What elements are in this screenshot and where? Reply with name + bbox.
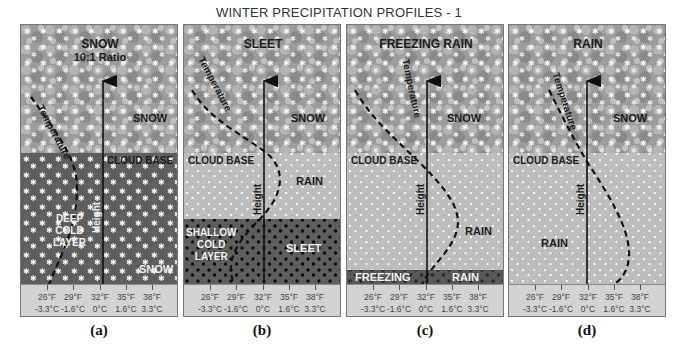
tick-label-celsius: 1.6°C <box>603 304 624 314</box>
axis-tick <box>561 285 562 290</box>
axis-tick <box>315 285 316 290</box>
axis-tick <box>289 285 290 290</box>
temperature-axis: 26°F-3.3°C29°F-1.6°C32°F0°C35°F1.6°C38°F… <box>347 284 503 317</box>
tick-label-fahrenheit: 29°F <box>64 292 82 302</box>
tick-label-celsius: 0°C <box>419 304 433 314</box>
layer-line-1: DEEP <box>53 213 86 225</box>
axis-tick <box>452 285 453 290</box>
axis-tick <box>236 285 237 290</box>
tick-label-celsius: 1.6°C <box>115 304 136 314</box>
tick-label-celsius: -1.6°C <box>387 304 411 314</box>
figure-title: WINTER PRECIPITATION PROFILES - 1 <box>0 5 678 20</box>
tick-label-fahrenheit: 35°F <box>117 292 135 302</box>
axis-tick <box>426 285 427 290</box>
tick-label-fahrenheit: 32°F <box>91 292 109 302</box>
tick-label-fahrenheit: 32°F <box>254 292 272 302</box>
axis-tick <box>126 285 127 290</box>
deep-cold-layer-label: DEEP COLD LAYER <box>53 213 86 249</box>
layer-line-2: COLD <box>186 239 237 251</box>
tick-label-fahrenheit: 35°F <box>605 292 623 302</box>
axis-tick <box>47 285 48 290</box>
upper-snow-label: SNOW <box>447 112 481 124</box>
height-axis-label: Height <box>91 202 102 233</box>
rain-label: RAIN <box>465 225 492 237</box>
tick-label-fahrenheit: 29°F <box>390 292 408 302</box>
axis-tick <box>373 285 374 290</box>
tick-label-fahrenheit: 35°F <box>280 292 298 302</box>
lower-sleet-label: SLEET <box>286 242 321 254</box>
tick-label-fahrenheit: 29°F <box>552 292 570 302</box>
tick-label-fahrenheit: 35°F <box>443 292 461 302</box>
tick-label-celsius: -3.3°C <box>198 304 222 314</box>
axis-tick <box>399 285 400 290</box>
surface-type-label: SNOW <box>21 37 178 51</box>
tick-label-fahrenheit: 32°F <box>579 292 597 302</box>
tick-label-fahrenheit: 26°F <box>38 292 56 302</box>
tick-label-celsius: 0°C <box>93 304 107 314</box>
lower-rain-label: RAIN <box>541 237 568 249</box>
tick-label-celsius: 3.3°C <box>304 304 325 314</box>
axis-tick <box>588 285 589 290</box>
snow-ratio-label: 10:1 Ratio <box>21 51 178 63</box>
surface-type-label: SLEET <box>184 37 341 51</box>
layer-line-2: COLD <box>53 225 86 237</box>
height-axis-label: Height <box>415 184 426 215</box>
tick-label-celsius: 0°C <box>581 304 595 314</box>
cloud-base-label: CLOUD BASE <box>513 155 579 166</box>
caption-a: (a) <box>20 322 178 339</box>
tick-label-celsius: 1.6°C <box>278 304 299 314</box>
panel-a-snow: ✱ ✱ ✱ ✱ <box>20 24 178 317</box>
tick-label-celsius: -1.6°C <box>549 304 573 314</box>
axis-tick <box>152 285 153 290</box>
freezing-label: FREEZING <box>355 271 411 283</box>
caption-c: (c) <box>346 322 504 339</box>
surface-type-label: RAIN <box>509 37 666 51</box>
upper-snow-label: SNOW <box>133 112 167 124</box>
tick-label-celsius: 3.3°C <box>467 304 488 314</box>
lower-snow-label: SNOW <box>139 263 173 275</box>
tick-label-fahrenheit: 29°F <box>227 292 245 302</box>
tick-label-fahrenheit: 38°F <box>631 292 649 302</box>
tick-label-celsius: -1.6°C <box>224 304 248 314</box>
tick-label-celsius: 3.3°C <box>141 304 162 314</box>
tick-label-fahrenheit: 26°F <box>201 292 219 302</box>
layer-line-3: LAYER <box>186 251 237 263</box>
cloud-base-label: CLOUD BASE <box>351 155 417 166</box>
tick-label-fahrenheit: 38°F <box>469 292 487 302</box>
layer-line-1: SHALLOW <box>186 227 237 239</box>
height-axis-label: Height <box>575 184 586 215</box>
panel-d-rain: RAIN SNOW CLOUD BASE RAIN Height Tempera… <box>508 24 666 317</box>
cloud-base-label: CLOUD BASE <box>188 155 254 166</box>
axis-tick <box>73 285 74 290</box>
tick-label-fahrenheit: 26°F <box>526 292 544 302</box>
tick-label-fahrenheit: 26°F <box>364 292 382 302</box>
cloud-base-label: CLOUD BASE <box>107 155 173 166</box>
axis-tick <box>535 285 536 290</box>
caption-d: (d) <box>508 322 666 339</box>
tick-label-fahrenheit: 32°F <box>417 292 435 302</box>
caption-b: (b) <box>183 322 341 339</box>
axis-tick <box>614 285 615 290</box>
rain-label: RAIN <box>296 175 323 187</box>
tick-label-celsius: 1.6°C <box>441 304 462 314</box>
temperature-axis: 26°F-3.3°C29°F-1.6°C32°F0°C35°F1.6°C38°F… <box>21 284 177 317</box>
tick-label-celsius: 0°C <box>256 304 270 314</box>
tick-label-fahrenheit: 38°F <box>306 292 324 302</box>
surface-type-label: FREEZING RAIN <box>347 37 504 51</box>
axis-tick <box>640 285 641 290</box>
upper-snow-label: SNOW <box>291 112 325 124</box>
tick-label-celsius: -3.3°C <box>361 304 385 314</box>
temperature-axis: 26°F-3.3°C29°F-1.6°C32°F0°C35°F1.6°C38°F… <box>184 284 340 317</box>
shallow-cold-layer-label: SHALLOW COLD LAYER <box>186 227 237 263</box>
tick-label-celsius: -1.6°C <box>61 304 85 314</box>
tick-label-celsius: -3.3°C <box>523 304 547 314</box>
panel-b-sleet: SLEET SNOW CLOUD BASE RAIN SHALLOW COLD … <box>183 24 341 317</box>
axis-tick <box>100 285 101 290</box>
tick-label-fahrenheit: 38°F <box>143 292 161 302</box>
axis-tick <box>263 285 264 290</box>
surface-rain-label: RAIN <box>452 271 479 283</box>
height-axis-label: Height <box>252 184 263 215</box>
panel-c-freezing-rain: FREEZING RAIN SNOW CLOUD BASE RAIN FREEZ… <box>346 24 504 317</box>
tick-label-celsius: -3.3°C <box>35 304 59 314</box>
tick-label-celsius: 3.3°C <box>629 304 650 314</box>
